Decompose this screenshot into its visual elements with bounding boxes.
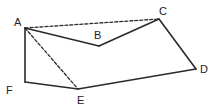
vertex-label-b: B [94, 29, 101, 41]
vertex-label-f: F [6, 84, 13, 96]
edges-group [25, 19, 196, 89]
labels-group: ABCDEF [6, 5, 208, 106]
vertex-label-a: A [14, 16, 22, 28]
edge-cd [159, 19, 196, 69]
vertex-label-c: C [159, 5, 167, 17]
vertex-label-d: D [200, 63, 208, 75]
edge-de [78, 69, 196, 89]
edge-ac-dashed [25, 19, 159, 28]
edge-ab [25, 28, 99, 46]
vertex-label-e: E [77, 94, 84, 106]
edge-ef [25, 82, 78, 89]
edge-ae-dashed [25, 28, 78, 89]
polygon-diagram: ABCDEF [0, 0, 220, 107]
